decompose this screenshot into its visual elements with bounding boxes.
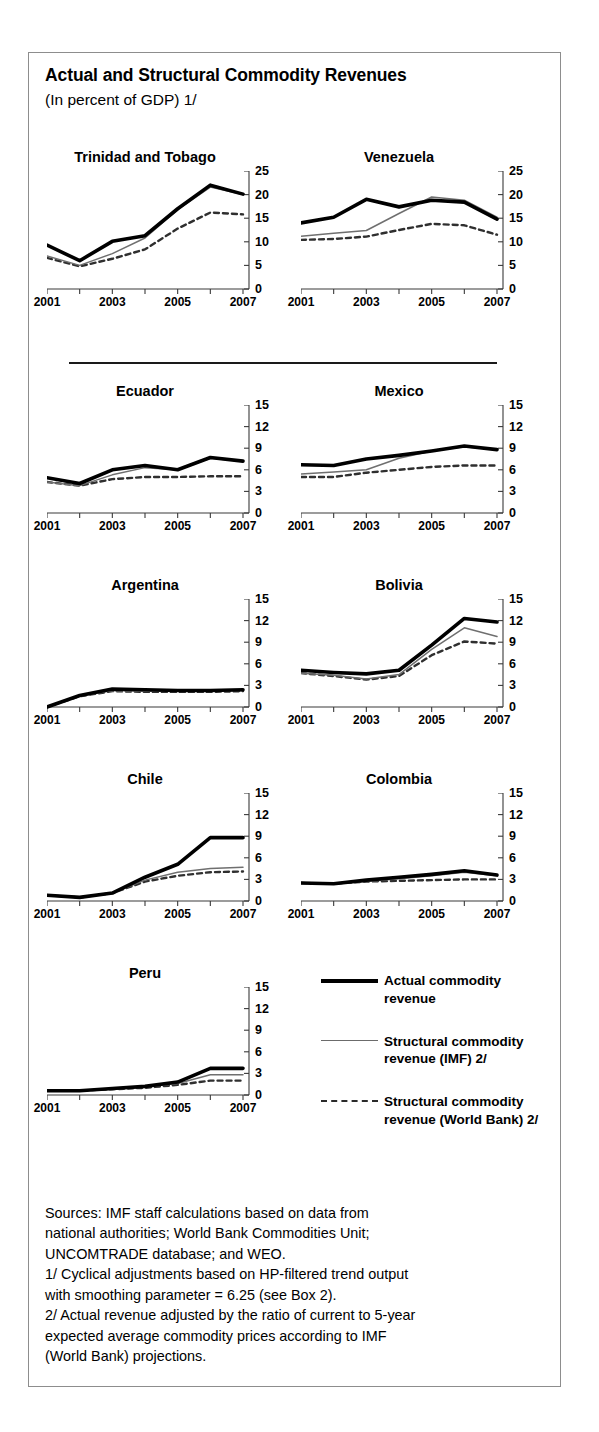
x-tick-label: 2005: [164, 519, 191, 533]
y-tick-label: 6: [255, 851, 262, 865]
y-tick-label: 0: [255, 894, 262, 908]
figure-subtitle: (In percent of GDP) 1/: [45, 91, 197, 109]
y-tick-label: 15: [509, 211, 523, 225]
x-tick-label: 2005: [418, 907, 445, 921]
figure-title: Actual and Structural Commodity Revenues: [45, 65, 407, 86]
x-tick-label: 2003: [353, 519, 380, 533]
panel-title: Ecuador: [47, 383, 243, 399]
x-tick-label: 2007: [230, 295, 257, 309]
y-tick-label: 6: [255, 657, 262, 671]
x-tick-label: 2001: [34, 907, 61, 921]
chart-legend: Actual commodity revenueStructural commo…: [321, 971, 553, 1153]
chart-panel-trinidad-and-tobago: Trinidad and Tobago200120032005200705101…: [47, 149, 289, 315]
x-tick-label: 2007: [230, 713, 257, 727]
y-tick-label: 15: [255, 592, 269, 606]
x-tick-label: 2007: [484, 519, 511, 533]
plot-area: [47, 171, 243, 289]
y-tick-label: 9: [509, 635, 516, 649]
y-tick-label: 15: [255, 211, 269, 225]
plot-area: [301, 171, 497, 289]
legend-line-swatch-icon: [321, 971, 378, 989]
plot-area: [47, 987, 243, 1095]
panel-title: Argentina: [47, 577, 243, 593]
y-tick-label: 0: [509, 506, 516, 520]
panel-title: Trinidad and Tobago: [47, 149, 243, 165]
chart-panel-argentina: Argentina200120032005200703691215: [47, 577, 289, 733]
y-tick-label: 0: [255, 282, 262, 296]
y-tick-label: 0: [255, 1088, 262, 1102]
series-line: [47, 458, 243, 484]
series-line: [301, 618, 497, 673]
y-axis-tick-labels: 03691215: [509, 405, 543, 513]
y-tick-label: 12: [255, 420, 269, 434]
y-tick-label: 20: [509, 188, 523, 202]
y-tick-label: 12: [255, 1002, 269, 1016]
x-tick-label: 2003: [353, 907, 380, 921]
chart-panel-colombia: Colombia200120032005200703691215: [301, 771, 543, 927]
y-tick-label: 0: [509, 894, 516, 908]
legend-label: Actual commodity revenue: [384, 971, 553, 1008]
y-tick-label: 3: [255, 1066, 262, 1080]
y-tick-label: 9: [255, 829, 262, 843]
chart-panel-peru: Peru200120032005200703691215: [47, 965, 289, 1121]
y-tick-label: 15: [255, 786, 269, 800]
x-tick-label: 2007: [484, 713, 511, 727]
x-tick-label: 2003: [99, 907, 126, 921]
x-tick-label: 2005: [418, 295, 445, 309]
y-tick-label: 15: [509, 786, 523, 800]
panel-title: Bolivia: [301, 577, 497, 593]
plot-area: [301, 405, 497, 513]
x-tick-label: 2001: [34, 519, 61, 533]
y-tick-label: 9: [255, 635, 262, 649]
y-tick-label: 9: [509, 441, 516, 455]
series-line: [301, 199, 497, 223]
series-line: [301, 871, 497, 884]
y-axis-tick-labels: 03691215: [255, 599, 289, 707]
legend-item-actual: Actual commodity revenue: [321, 971, 553, 1008]
series-line: [301, 446, 497, 465]
chart-panel-mexico: Mexico200120032005200703691215: [301, 383, 543, 539]
x-tick-label: 2007: [484, 295, 511, 309]
panel-title: Colombia: [301, 771, 497, 787]
y-tick-label: 9: [509, 829, 516, 843]
y-tick-label: 6: [509, 657, 516, 671]
y-tick-label: 20: [255, 188, 269, 202]
plot-area: [47, 405, 243, 513]
x-tick-label: 2003: [99, 295, 126, 309]
y-tick-label: 0: [509, 282, 516, 296]
y-tick-label: 3: [509, 678, 516, 692]
x-tick-label: 2005: [418, 519, 445, 533]
y-tick-label: 12: [509, 420, 523, 434]
y-tick-label: 10: [509, 235, 523, 249]
figure-footnotes: Sources: IMF staff calculations based on…: [45, 1203, 545, 1367]
x-tick-label: 2001: [288, 907, 315, 921]
y-axis-tick-labels: 0510152025: [509, 171, 543, 289]
series-line: [301, 224, 497, 240]
y-tick-label: 0: [255, 506, 262, 520]
footnote-line: UNCOMTRADE database; and WEO.: [45, 1244, 545, 1264]
legend-item-worldbank: Structural commodity revenue (World Bank…: [321, 1092, 553, 1129]
footnote-line: with smoothing parameter = 6.25 (see Box…: [45, 1285, 545, 1305]
y-tick-label: 5: [509, 258, 516, 272]
y-tick-label: 6: [255, 1045, 262, 1059]
legend-line-swatch-icon: [321, 1092, 378, 1110]
y-tick-label: 25: [255, 164, 269, 178]
panel-title: Chile: [47, 771, 243, 787]
x-tick-label: 2005: [164, 907, 191, 921]
y-tick-label: 12: [255, 808, 269, 822]
y-tick-label: 15: [255, 980, 269, 994]
y-tick-label: 5: [255, 258, 262, 272]
series-line: [47, 691, 243, 707]
x-tick-label: 2003: [353, 295, 380, 309]
x-tick-label: 2001: [34, 1101, 61, 1115]
chart-panel-bolivia: Bolivia200120032005200703691215: [301, 577, 543, 733]
x-tick-label: 2007: [230, 907, 257, 921]
y-axis-tick-labels: 03691215: [509, 793, 543, 901]
footnote-line: (World Bank) projections.: [45, 1346, 545, 1366]
y-tick-label: 15: [255, 398, 269, 412]
y-tick-label: 0: [255, 700, 262, 714]
y-tick-label: 3: [255, 872, 262, 886]
x-tick-label: 2003: [353, 713, 380, 727]
legend-line-swatch-icon: [321, 1032, 378, 1050]
y-tick-label: 6: [509, 851, 516, 865]
